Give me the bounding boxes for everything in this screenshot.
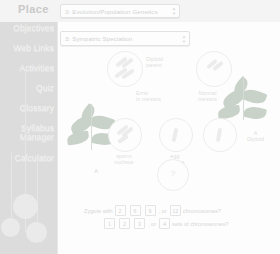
sidebar-item-objectives[interactable]: Objectives [13, 24, 54, 33]
diploid-parent-label: Diploid parent [146, 56, 163, 68]
page-title: Place [18, 3, 49, 15]
chromosome-option-12[interactable]: 12 [170, 205, 181, 216]
plant-a-diploid-label: A Diploid [247, 130, 264, 142]
sperm-nucleus [108, 118, 142, 152]
sidebar-item-quiz[interactable]: Quiz [36, 84, 54, 93]
error-in-meiosis-label: Error in meiosis [136, 90, 161, 102]
question-mark-label: ? [158, 169, 188, 178]
updown-arrows-icon: ▲▼ [169, 6, 179, 16]
zygote-lead-text: Zygote with [84, 208, 113, 214]
topic-select-value: 3: Sympatric Speciation [61, 35, 179, 42]
sperm-nucleus-label: sperm nucleus [108, 153, 140, 165]
question-row-sets: 1 2 3 , or 4 sets of chromosomes? [102, 218, 228, 229]
meiosis-diagram: A A Diploid Diploid parent [58, 46, 280, 216]
set-option-4[interactable]: 4 [159, 218, 170, 229]
chromosome-option-9[interactable]: 9 [145, 205, 156, 216]
normal-meiosis-nucleus [196, 51, 232, 87]
set-option-2[interactable]: 2 [119, 218, 130, 229]
question-row-chromosomes: Zygote with 2 6 9 , or 12 chromosomes? [84, 205, 221, 216]
normal-meiosis-label: Normal meiosis [198, 90, 217, 102]
updown-arrows-icon: ▲▼ [179, 34, 189, 44]
set-option-3[interactable]: 3 [134, 218, 145, 229]
sidebar: Objectives Web Links Activities Quiz Glo… [0, 22, 57, 254]
sidebar-item-web-links[interactable]: Web Links [14, 44, 54, 53]
dandelion-flower-icon [26, 222, 47, 243]
chapter-select[interactable]: 3: Evolution/Population Genetics ▲▼ [60, 4, 180, 18]
application-window: Place 3: Evolution/Population Genetics ▲… [0, 0, 280, 254]
secondary-gamete-nucleus [203, 118, 237, 152]
chapter-select-value: 3: Evolution/Population Genetics [61, 8, 169, 15]
chromosome-option-2[interactable]: 2 [115, 205, 126, 216]
chromosome-option-6[interactable]: 6 [130, 205, 141, 216]
dandelion-flower-icon [13, 194, 38, 219]
chromosomes-trail-text: chromosomes? [183, 208, 221, 214]
dandelion-flower-icon [1, 218, 20, 237]
unknown-zygote-circle: ? [157, 159, 189, 191]
diploid-parent-nucleus [107, 51, 143, 87]
topic-select[interactable]: 3: Sympatric Speciation ▲▼ [60, 31, 190, 46]
set-option-separator: , or [148, 221, 156, 227]
plant-a-label: A [86, 168, 106, 174]
sets-trail-text: sets of chromosomes? [172, 221, 228, 227]
sidebar-item-calculator[interactable]: Calculator [15, 154, 54, 163]
content-panel: 3: Sympatric Speciation ▲▼ A [57, 22, 280, 254]
set-option-1[interactable]: 1 [104, 218, 115, 229]
chromosome-option-separator: , or [159, 208, 167, 214]
egg-nucleus [159, 118, 193, 152]
